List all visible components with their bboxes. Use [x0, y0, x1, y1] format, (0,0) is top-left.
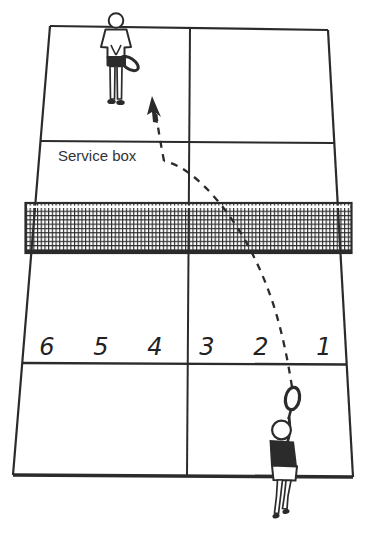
- receiver-shirt: [101, 30, 131, 58]
- server-shorts: [272, 466, 297, 481]
- tennis-court-diagram: Service box 6 5 4 3 2 1: [0, 0, 371, 535]
- receiver-right-shoe: [116, 100, 124, 105]
- diagram-canvas: Service box 6 5 4 3 2 1: [0, 0, 371, 535]
- service-box-label: Service box: [58, 147, 137, 164]
- server-racket-icon: [284, 386, 302, 411]
- server-right-leg: [283, 481, 292, 510]
- receiver-right-leg: [117, 67, 122, 100]
- receiver-left-leg: [110, 67, 115, 100]
- server-player-icon: [270, 386, 302, 519]
- net-cord-gap: [27, 206, 350, 208]
- zone-label-5: 5: [93, 333, 108, 361]
- receiver-head: [109, 13, 124, 28]
- bounce-arrowhead-icon: [147, 96, 161, 123]
- net-mesh: [26, 203, 352, 253]
- net-icon: [26, 203, 352, 253]
- server-shirt: [270, 440, 298, 467]
- server-head: [272, 421, 291, 440]
- zone-label-4: 4: [147, 333, 162, 361]
- zone-label-3: 3: [199, 333, 214, 361]
- receiver-left-shoe: [107, 99, 115, 104]
- near-baseline: [13, 475, 353, 477]
- server-left-leg: [275, 480, 283, 514]
- zone-label-6: 6: [39, 333, 54, 361]
- serve-trajectory-path: [164, 161, 292, 387]
- far-service-line: [40, 141, 334, 143]
- zone-label-2: 2: [253, 333, 268, 361]
- zone-label-1: 1: [316, 333, 331, 361]
- near-service-line: [22, 363, 347, 365]
